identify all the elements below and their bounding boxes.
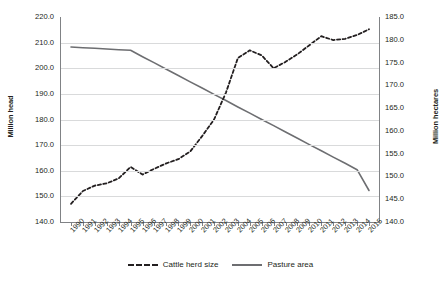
legend-label-cattle-herd-size: Cattle herd size xyxy=(163,260,219,269)
x-axis-labels: 1990199119921993199419951996199719981999… xyxy=(0,0,441,281)
legend-label-pasture-area: Pasture area xyxy=(267,260,313,269)
solid-line-icon xyxy=(232,264,262,266)
chart-container: Million head Million hectares 220.0210.0… xyxy=(0,0,441,281)
chart-legend: Cattle herd size Pasture area xyxy=(0,260,441,269)
legend-item-cattle-herd-size: Cattle herd size xyxy=(128,260,219,269)
legend-item-pasture-area: Pasture area xyxy=(232,260,313,269)
dashed-line-icon xyxy=(128,264,158,266)
